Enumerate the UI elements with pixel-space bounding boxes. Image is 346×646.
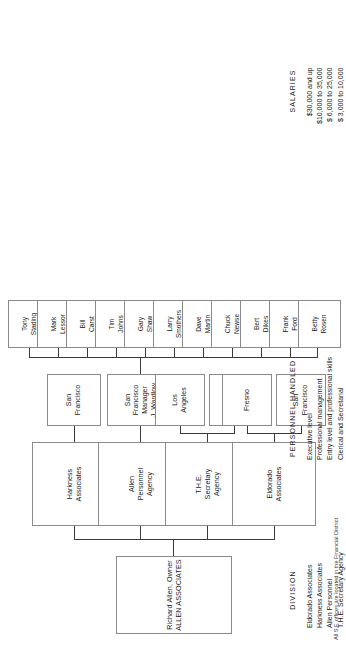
staff-6-line-1: Gary (137, 316, 145, 333)
legend-division-row-3: T.H.E. Secretary Agency (336, 552, 346, 628)
node-office-the-los-angeles: Los Angeles (155, 374, 205, 426)
staff-1-line-1: Frank (282, 316, 290, 333)
connector-spur-the (207, 526, 208, 540)
division-eldorado-line-1: Eldorado (265, 467, 274, 502)
connector-spur-harkness (74, 526, 75, 540)
division-allen-line-2: Personnel (136, 468, 145, 500)
node-office-eldorado-fresno: Fresno (222, 374, 272, 426)
office-harkness-sf-line-2: Francisco (74, 385, 83, 415)
legend-salaries-row-3: $ 3,000 to 10,000 (336, 68, 346, 124)
staff-10-line-1: Tony (21, 313, 29, 335)
legend-salaries: SALARIES $30,000 and up $10,000 to 35,00… (288, 68, 346, 124)
division-harkness-line-2: Associates (74, 467, 83, 502)
division-allen-line-1: Allen (127, 468, 136, 500)
staff-0-line-1: Betty (311, 314, 319, 333)
legend-personnel-title: PERSONNEL HANDLED (288, 357, 298, 460)
connector-the-to-san-francisco (234, 426, 235, 434)
staff-3-line-1: Chuck (224, 314, 232, 334)
root-line-1: Richard Allen, Owner (165, 559, 174, 630)
staff-4-line-1: Dave (195, 315, 203, 333)
legend-personnel-row-1: Professional management (315, 357, 325, 460)
connector-root-stem (173, 540, 174, 556)
connector-staff-spur-5 (174, 348, 175, 358)
legend-salaries-row-1: $10,000 to 35,000 (315, 68, 325, 124)
office-harkness-sf-line-1: San (65, 385, 74, 415)
connector-eldorado-stem (274, 434, 275, 442)
connector-staff-spur-2 (87, 348, 88, 358)
legend-personnel-handled: PERSONNEL HANDLED Executive level Profes… (288, 357, 346, 460)
legend-salaries-row-2: $ 6,000 to 25,000 (325, 68, 335, 124)
staff-5-line-1: Larry (166, 310, 174, 338)
division-the-line-1: T.H.E. (194, 469, 203, 500)
connector-staff-spur-4 (145, 348, 146, 358)
office-allen-sf-line-2: Francisco (132, 383, 141, 417)
connector-spur-allen-personnel (140, 526, 141, 540)
office-eldorado-fresno-line-1: Fresno (243, 389, 252, 411)
office-the-la-line-1: Los (171, 387, 180, 412)
connector-staff-spur-1 (58, 348, 59, 358)
org-chart-stage: Richard Allen, Owner ALLEN ASSOCIATES Ha… (0, 0, 346, 646)
connector-staff-spur-0 (29, 348, 30, 358)
connector-spur-eldorado (274, 526, 275, 540)
staff-8-line-1: Bill (79, 316, 87, 332)
node-office-harkness-san-francisco: San Francisco (47, 374, 101, 426)
connector-allen-to-office (140, 426, 141, 442)
office-allen-sf-line-3: Manager (141, 383, 150, 417)
connector-the-stem (207, 434, 208, 442)
legend-personnel-row-0: Executive level (305, 357, 315, 460)
division-eldorado-line-2: Associates (274, 467, 283, 502)
staff-2-line-1: Bert (253, 316, 261, 333)
legend-division-title: DIVISION (288, 552, 298, 628)
rotated-chart-canvas: Richard Allen, Owner ALLEN ASSOCIATES Ha… (0, 0, 346, 646)
connector-staff-bus (29, 357, 317, 358)
legend-personnel-row-2: Entry level and professional skills (325, 357, 335, 460)
connector-staff-spur-7 (232, 348, 233, 358)
connector-staff-spur-6 (203, 348, 204, 358)
connector-staff-spur-3 (116, 348, 117, 358)
connector-division-bus (74, 539, 274, 540)
legend-salaries-row-0: $30,000 and up (305, 68, 315, 124)
connector-harkness-to-office (74, 426, 75, 442)
office-the-la-line-2: Angeles (180, 387, 189, 412)
division-allen-line-3: Agency (145, 468, 154, 500)
legend-division-row-2: Allen Personnel (325, 552, 335, 628)
staff-7-line-1: Tim (108, 315, 116, 333)
division-the-line-3: Agency (212, 469, 221, 500)
legend-personnel-row-3: Clerical and Secretarial (336, 357, 346, 460)
connector-office-to-staff-stem (140, 358, 141, 374)
connector-the-to-los-angeles (180, 426, 181, 434)
staff-9-line-1: Mark (50, 314, 58, 334)
legend-division-row-1: Harkness Associates (315, 552, 325, 628)
connector-eldorado-to-fresno (247, 426, 248, 434)
root-line-2: ALLEN ASSOCIATES (174, 559, 183, 630)
division-harkness-line-1: Harkness (65, 467, 74, 502)
node-staff-betty-rosen: Betty Rosen (298, 300, 341, 348)
office-allen-sf-line-1: San (124, 383, 133, 417)
legend-division-row-0: Eldorado Associates (305, 552, 315, 628)
connector-staff-spur-8 (261, 348, 262, 358)
legend-salaries-title: SALARIES (288, 68, 298, 124)
node-root-allen-associates: Richard Allen, Owner ALLEN ASSOCIATES (116, 556, 232, 634)
staff-0-line-2: Rosen (320, 314, 328, 333)
division-the-line-2: Secretary (203, 469, 212, 500)
legend-division: DIVISION Eldorado Associates Harkness As… (288, 552, 346, 628)
